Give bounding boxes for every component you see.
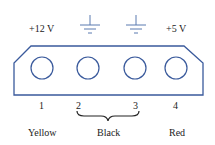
ground-icon — [126, 15, 146, 33]
connector-housing — [14, 46, 203, 95]
pin-number-2: 2 — [76, 100, 81, 112]
ground-icon — [80, 15, 100, 33]
color-label-yellow: Yellow — [28, 127, 56, 139]
label-plus5v: +5 V — [166, 23, 186, 35]
color-label-black: Black — [97, 127, 120, 139]
pin-4 — [165, 57, 187, 79]
pin-2 — [77, 57, 99, 79]
brace-icon — [77, 111, 139, 121]
pin-number-1: 1 — [39, 100, 44, 112]
connector-diagram — [0, 0, 215, 145]
pin-3 — [124, 57, 146, 79]
pin-1 — [31, 57, 53, 79]
color-label-red: Red — [169, 127, 185, 139]
pin-number-4: 4 — [173, 100, 178, 112]
pin-number-3: 3 — [133, 100, 138, 112]
label-plus12v: +12 V — [29, 23, 54, 35]
